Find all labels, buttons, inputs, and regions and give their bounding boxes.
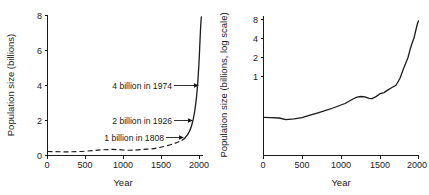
x-tick-label-1500-linear: 1500 <box>151 160 171 170</box>
y-axis-title-log: Population size (billions, log scale) <box>218 12 229 157</box>
y-tick-label-0-linear: 0 <box>37 151 42 161</box>
y-tick-label-1-log: 1 <box>253 72 258 82</box>
x-axis-title-log: Year <box>331 177 350 188</box>
annotation-label-4-billion: 4 billion in 1974 <box>112 81 172 91</box>
chart-panel-log: Population size (billions, log scale) 8 … <box>215 0 429 195</box>
series-population-solid-linear <box>182 17 201 140</box>
x-tick-label-500-log: 500 <box>294 160 309 170</box>
x-tick-label-500-linear: 500 <box>77 160 92 170</box>
y-tick-label-6-linear: 6 <box>37 46 42 56</box>
annotation-label-1-billion: 1 billion in 1808 <box>104 133 164 143</box>
x-tick-label-2000-linear: 2000 <box>189 160 209 170</box>
x-axis-title-linear: Year <box>113 177 132 188</box>
annotation-1-billion: 1 billion in 1808 <box>104 133 184 143</box>
annotation-4-billion: 4 billion in 1974 <box>112 81 199 91</box>
y-tick-label-4-linear: 4 <box>37 81 42 91</box>
y-ticks-log: 8 4 2 1 <box>253 15 264 82</box>
linear-chart-svg: Population size (billions) 8 6 4 2 0 <box>0 0 215 195</box>
x-ticks-linear: 0 500 1000 1500 2000 <box>44 156 209 171</box>
x-ticks-log: 0 500 1000 1500 2000 <box>260 156 427 171</box>
y-tick-label-2-log: 2 <box>253 53 258 63</box>
y-tick-label-8-linear: 8 <box>37 11 42 21</box>
x-tick-label-0-log: 0 <box>260 160 265 170</box>
annotation-2-billion: 2 billion in 1926 <box>112 116 193 126</box>
annotation-label-2-billion: 2 billion in 1926 <box>112 116 172 126</box>
x-tick-label-1000-log: 1000 <box>331 160 351 170</box>
y-axis-title-linear: Population size (billions) <box>5 34 16 136</box>
log-chart-svg: Population size (billions, log scale) 8 … <box>215 0 429 195</box>
x-tick-label-1000-linear: 1000 <box>113 160 133 170</box>
y-tick-label-2-linear: 2 <box>37 116 42 126</box>
population-growth-figure: Population size (billions) 8 6 4 2 0 <box>0 0 429 195</box>
chart-panel-linear: Population size (billions) 8 6 4 2 0 <box>0 0 215 195</box>
y-ticks-linear: 8 6 4 2 0 <box>37 11 48 161</box>
y-tick-label-4-log: 4 <box>253 34 258 44</box>
x-tick-label-1500-log: 1500 <box>370 160 390 170</box>
series-population-log <box>264 21 419 120</box>
x-tick-label-2000-log: 2000 <box>407 160 427 170</box>
x-tick-label-0-linear: 0 <box>44 160 49 170</box>
y-tick-label-8-log: 8 <box>253 15 258 25</box>
